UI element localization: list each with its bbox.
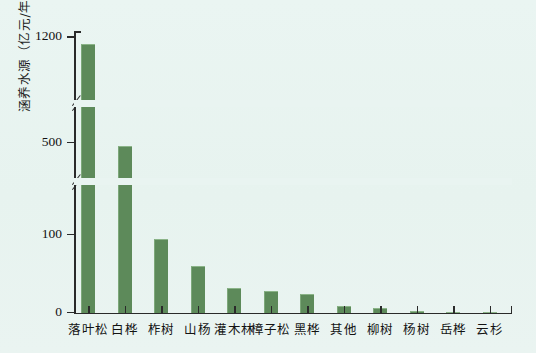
x-tick-山杨 bbox=[198, 306, 200, 313]
x-tick-白桦 bbox=[125, 306, 127, 313]
bar-柞树 bbox=[154, 239, 168, 313]
y-tick-label-1200: 1200 bbox=[2, 28, 62, 44]
bar-白桦 bbox=[118, 146, 132, 313]
bar-break-gap-upper bbox=[74, 100, 512, 107]
y-axis-title: 涵养水源（亿元/年） bbox=[14, 0, 36, 112]
y-tick-label-100: 100 bbox=[2, 226, 62, 242]
x-tick-岳桦 bbox=[453, 306, 455, 313]
x-tick-柞树 bbox=[161, 306, 163, 313]
x-tick-杨树 bbox=[417, 306, 419, 313]
x-tick-樟子松 bbox=[271, 306, 273, 313]
x-tick-灌木林 bbox=[234, 306, 236, 313]
bar-break-gap-lower bbox=[74, 178, 512, 185]
x-tick-云杉 bbox=[490, 306, 492, 313]
x-tick-黑桦 bbox=[307, 306, 309, 313]
x-tick-柳树 bbox=[380, 306, 382, 313]
y-tick-label-0: 0 bbox=[2, 304, 62, 320]
plot-area bbox=[74, 31, 512, 313]
y-tick-label-500: 500 bbox=[2, 134, 62, 150]
x-tick-其他 bbox=[344, 306, 346, 313]
x-label-云杉: 云杉 bbox=[455, 319, 525, 338]
x-tick-落叶松 bbox=[88, 306, 90, 313]
chart-container: 涵养水源（亿元/年） 01005001200 落叶松白桦柞树山杨灌木林樟子松黑桦… bbox=[0, 0, 536, 353]
